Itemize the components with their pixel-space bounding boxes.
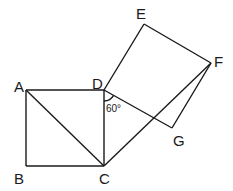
label-b: B (14, 170, 24, 187)
segment-de (104, 24, 144, 90)
angle-label: 60° (106, 103, 121, 114)
angle-arc-d (104, 95, 114, 101)
label-f: F (214, 53, 223, 70)
segment-cf (104, 63, 211, 166)
geometry-diagram: A B C D E F G 60° (0, 0, 233, 191)
segment-ac (26, 90, 104, 166)
label-e: E (136, 5, 146, 22)
label-a: A (14, 78, 24, 95)
label-c: C (99, 170, 110, 187)
label-d: D (92, 75, 103, 92)
segment-ef (144, 24, 211, 63)
label-g: G (173, 132, 185, 149)
